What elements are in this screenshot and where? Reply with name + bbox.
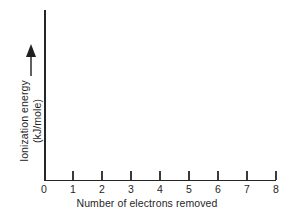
x-axis-tick-label: 5 [179,183,199,195]
x-axis-tick-label: 0 [34,183,54,195]
ionization-energy-graph: Ionization energy (kJ/mole) 012345678 Nu… [0,0,294,217]
x-axis-tick-label: 2 [92,183,112,195]
x-axis-tick-label: 8 [266,183,286,195]
x-axis-tick-label: 1 [63,183,83,195]
x-axis-tick-label: 6 [208,183,228,195]
y-axis-title-line-2: (kJ/mole) [31,76,44,166]
x-axis-tick-label: 4 [150,183,170,195]
x-axis-tick-label: 3 [121,183,141,195]
x-axis-title: Number of electrons removed [0,197,294,210]
y-axis-title: Ionization energy (kJ/mole) [18,76,44,166]
plot-area [45,10,276,180]
up-arrow-icon [24,44,38,76]
y-axis-title-line-1: Ionization energy [18,80,30,162]
x-axis-tick-label: 7 [237,183,257,195]
